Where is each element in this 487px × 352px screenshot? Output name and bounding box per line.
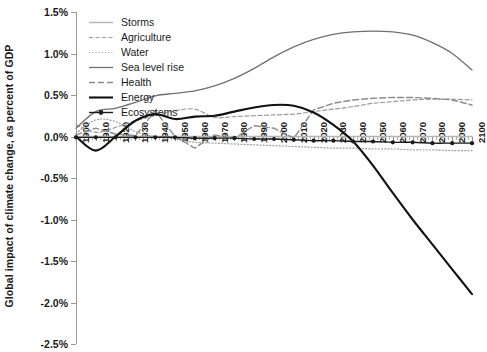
y-tick-label: 0.5%: [44, 89, 68, 101]
legend-label: Storms: [121, 17, 154, 28]
series-marker-ecosystems: [272, 137, 276, 141]
y-tick-label: 0.0%: [44, 131, 68, 143]
legend-label: Sea level rise: [121, 62, 184, 73]
series-marker-ecosystems: [470, 141, 474, 145]
legend-key-icon: [88, 17, 114, 28]
legend-label: Energy: [121, 92, 154, 103]
series-marker-ecosystems: [430, 141, 434, 145]
legend-key-icon: [88, 47, 114, 58]
series-marker-ecosystems: [173, 135, 177, 139]
legend-key-icon: [88, 107, 114, 118]
legend-label: Agriculture: [121, 32, 171, 43]
series-marker-ecosystems: [391, 140, 395, 144]
series-marker-ecosystems: [411, 140, 415, 144]
series-marker-ecosystems: [133, 135, 137, 139]
legend-item-ecosystems[interactable]: Ecosystems: [88, 106, 184, 119]
y-tick-label: 1.0%: [44, 48, 68, 60]
legend-item-agriculture[interactable]: Agriculture: [88, 31, 184, 44]
series-marker-ecosystems: [312, 139, 316, 143]
series-marker-ecosystems: [74, 135, 78, 139]
series-marker-ecosystems: [351, 139, 355, 143]
y-tick-label: -1.5%: [41, 255, 68, 267]
legend-label: Ecosystems: [121, 107, 178, 118]
series-marker-ecosystems: [232, 136, 236, 140]
legend-item-energy[interactable]: Energy: [88, 91, 184, 104]
legend: StormsAgricultureWaterSea level riseHeal…: [88, 16, 184, 119]
y-tick: [71, 344, 76, 345]
legend-label: Water: [121, 47, 149, 58]
series-marker-ecosystems: [371, 139, 375, 143]
legend-item-health[interactable]: Health: [88, 76, 184, 89]
legend-label: Health: [121, 77, 151, 88]
legend-key-icon: [88, 32, 114, 43]
series-marker-ecosystems: [114, 135, 118, 139]
series-marker-ecosystems: [193, 136, 197, 140]
series-line-water: [76, 119, 472, 151]
legend-key-icon: [88, 62, 114, 73]
y-tick-label: -1.0%: [41, 214, 68, 226]
series-marker-ecosystems: [292, 138, 296, 142]
series-marker-ecosystems: [252, 137, 256, 141]
legend-key-icon: [88, 92, 114, 103]
series-marker-ecosystems: [213, 136, 217, 140]
y-tick-label: -0.5%: [41, 172, 68, 184]
series-marker-ecosystems: [450, 141, 454, 145]
y-tick-label: -2.5%: [41, 338, 68, 350]
series-marker-ecosystems: [94, 135, 98, 139]
y-tick-label: 1.5%: [44, 6, 68, 18]
y-tick-label: -2.0%: [41, 297, 68, 309]
series-marker-ecosystems: [153, 135, 157, 139]
series-line-energy: [76, 105, 472, 294]
y-axis-title: Global impact of climate change, as perc…: [0, 0, 18, 352]
x-tick-label: 2100: [476, 121, 487, 142]
legend-item-storms[interactable]: Storms: [88, 16, 184, 29]
series-marker-ecosystems: [331, 139, 335, 143]
legend-item-water[interactable]: Water: [88, 46, 184, 59]
legend-key-icon: [88, 77, 114, 88]
legend-item-sea-level-rise[interactable]: Sea level rise: [88, 61, 184, 74]
